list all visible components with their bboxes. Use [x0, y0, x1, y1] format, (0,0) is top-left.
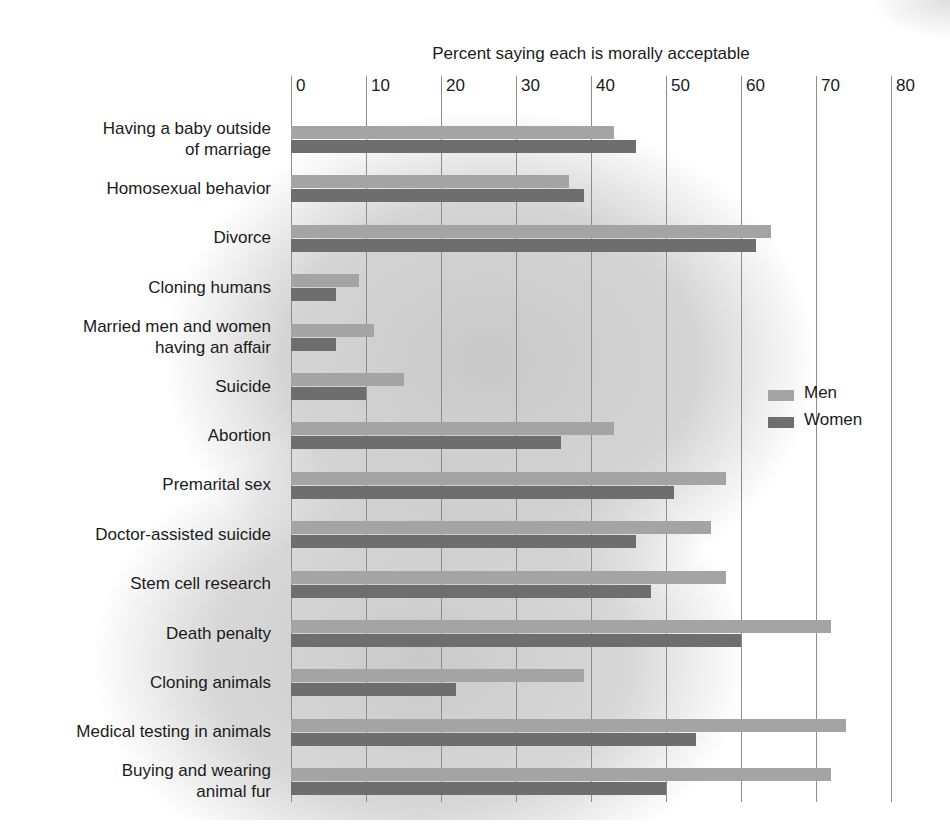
bar-group	[291, 324, 891, 351]
x-tick-label-80: 80	[891, 76, 915, 96]
bar-group	[291, 274, 891, 301]
category-label: Suicide	[215, 376, 271, 397]
legend-item-men: Men	[768, 383, 908, 410]
bar-women	[291, 338, 336, 351]
bar-men	[291, 175, 569, 188]
gridline-30	[516, 100, 517, 802]
bar-women	[291, 140, 636, 153]
gridline-80	[891, 100, 892, 802]
gridline-60	[741, 100, 742, 802]
bar-men	[291, 274, 359, 287]
bar-men	[291, 373, 404, 386]
category-label: Cloning humans	[148, 277, 271, 298]
gridline-20	[441, 100, 442, 802]
category-label: Death penalty	[166, 623, 271, 644]
bar-women	[291, 634, 741, 647]
category-axis-labels: Having a baby outside of marriageHomosex…	[0, 100, 281, 802]
bar-men	[291, 669, 584, 682]
gridline-40	[591, 100, 592, 802]
gridline-10	[366, 100, 367, 802]
bar-women	[291, 782, 666, 795]
bar-men	[291, 620, 831, 633]
bar-men	[291, 126, 614, 139]
bar-men	[291, 422, 614, 435]
tick-mark-40	[591, 76, 592, 100]
bar-group	[291, 175, 891, 202]
bar-women	[291, 436, 561, 449]
bar-men	[291, 768, 831, 781]
category-label: Cloning animals	[150, 672, 271, 693]
gridline-50	[666, 100, 667, 802]
tick-mark-20	[441, 76, 442, 100]
tick-mark-10	[366, 76, 367, 100]
bar-men	[291, 571, 726, 584]
bar-women	[291, 535, 636, 548]
bar-group	[291, 225, 891, 252]
tick-mark-70	[816, 76, 817, 100]
category-label: Married men and women having an affair	[83, 316, 271, 358]
bar-group	[291, 719, 891, 746]
gridline-70	[816, 100, 817, 802]
tick-mark-30	[516, 76, 517, 100]
category-label: Having a baby outside of marriage	[103, 118, 271, 160]
bar-women	[291, 585, 651, 598]
category-label: Homosexual behavior	[107, 178, 271, 199]
bar-women	[291, 733, 696, 746]
chart-legend: Men Women	[768, 383, 908, 437]
category-label: Premarital sex	[162, 474, 271, 495]
bar-men	[291, 225, 771, 238]
tick-mark-0	[291, 76, 292, 100]
bar-group	[291, 126, 891, 153]
category-label: Stem cell research	[130, 573, 271, 594]
legend-swatch-women	[768, 417, 794, 428]
bar-group	[291, 521, 891, 548]
bar-men	[291, 521, 711, 534]
legend-swatch-men	[768, 390, 794, 401]
bar-men	[291, 472, 726, 485]
tick-mark-60	[741, 76, 742, 100]
corner-smudge	[870, 0, 950, 40]
category-label: Buying and wearing animal fur	[122, 760, 271, 802]
bar-women	[291, 683, 456, 696]
bar-women	[291, 486, 674, 499]
legend-label-women: Women	[804, 410, 862, 430]
axis-tick-marks	[291, 76, 891, 100]
bar-men	[291, 719, 846, 732]
plot-area	[291, 100, 891, 802]
category-label: Divorce	[213, 227, 271, 248]
category-label: Medical testing in animals	[76, 721, 271, 742]
legend-label-men: Men	[804, 383, 837, 403]
bar-group	[291, 768, 891, 795]
bar-men	[291, 324, 374, 337]
gridline-0	[291, 100, 292, 802]
tick-mark-50	[666, 76, 667, 100]
category-label: Abortion	[208, 425, 271, 446]
category-label: Doctor-assisted suicide	[95, 524, 271, 545]
bar-group	[291, 620, 891, 647]
tick-mark-80	[891, 76, 892, 100]
bar-women	[291, 189, 584, 202]
chart-page: Percent saying each is morally acceptabl…	[0, 0, 950, 831]
bar-women	[291, 387, 366, 400]
bar-group	[291, 472, 891, 499]
chart-title: Percent saying each is morally acceptabl…	[291, 44, 891, 64]
legend-item-women: Women	[768, 410, 908, 437]
bar-group	[291, 669, 891, 696]
bar-group	[291, 571, 891, 598]
bar-women	[291, 239, 756, 252]
bar-women	[291, 288, 336, 301]
